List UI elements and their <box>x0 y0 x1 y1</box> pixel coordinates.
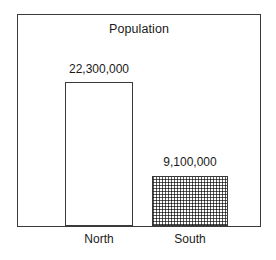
chart-title: Population <box>17 22 261 36</box>
bar-value-label-north: 22,300,000 <box>39 62 159 76</box>
category-label-south: South <box>145 232 235 246</box>
bar-north <box>65 82 133 226</box>
x-axis-baseline <box>17 226 261 228</box>
bar-value-label-south: 9,100,000 <box>140 155 240 169</box>
category-label-north: North <box>54 232 144 246</box>
bar-south <box>152 176 228 226</box>
population-bar-chart: Population 22,300,000 9,100,000 North So… <box>0 0 276 260</box>
